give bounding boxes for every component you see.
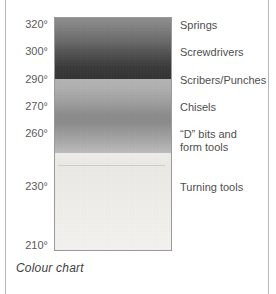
figure-caption: Colour chart: [16, 261, 84, 275]
legend-column: Springs Screwdrivers Scribers/Punches Ch…: [180, 0, 272, 294]
legend-label-scribers-punches: Scribers/Punches: [180, 74, 272, 87]
figure-frame: 320° 300° 290° 270° 260° 230° 210° Sprin…: [0, 0, 276, 294]
legend-label-springs: Springs: [180, 19, 272, 32]
band-streak: [58, 165, 165, 166]
axis-tick-210: 210°: [0, 240, 48, 251]
axis-tick-270: 270°: [0, 101, 48, 112]
axis-tick-290: 290°: [0, 74, 48, 85]
legend-label-turning-tools: Turning tools: [180, 181, 272, 194]
colour-band-lower: [55, 153, 171, 250]
axis-tick-320: 320°: [0, 19, 48, 30]
axis-tick-230: 230°: [0, 181, 48, 192]
axis-tick-260: 260°: [0, 128, 48, 139]
axis-tick-column: 320° 300° 290° 270° 260° 230° 210°: [0, 0, 48, 294]
legend-label-screwdrivers: Screwdrivers: [180, 46, 272, 59]
colour-band-middle: [55, 79, 171, 153]
temper-colour-bar: [54, 17, 172, 251]
legend-label-d-bits-form-tools: “D” bits and form tools: [180, 128, 272, 154]
colour-band-upper: [55, 18, 171, 79]
legend-label-chisels: Chisels: [180, 101, 272, 114]
axis-tick-300: 300°: [0, 46, 48, 57]
